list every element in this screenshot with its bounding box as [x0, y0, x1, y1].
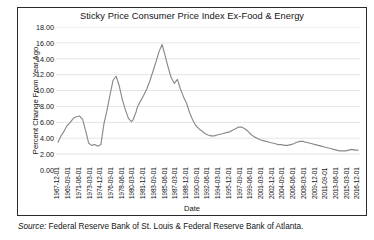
x-tick-label: 1976-09-01 — [107, 167, 114, 199]
x-tick-label: 1971-06-01 — [75, 167, 82, 199]
y-tick-label: 4.00 — [24, 134, 54, 143]
x-tick-label: 1990-09-01 — [193, 167, 200, 199]
x-tick-label: 1987-03-01 — [171, 167, 178, 199]
source-note: Source: Federal Reserve Bank of St. Loui… — [18, 222, 303, 231]
x-tick-label: 1978-06-01 — [118, 167, 125, 199]
y-tick-label: 6.00 — [24, 118, 54, 127]
x-tick-label: 2011-09-01 — [321, 168, 328, 199]
y-tick-label: 16.00 — [24, 39, 54, 48]
x-tick-label: 1969-09-01 — [64, 167, 71, 199]
x-tick-label: 2013-06-01 — [332, 167, 339, 199]
source-prefix: Source: — [18, 222, 46, 231]
x-tick-label: 1999-06-01 — [246, 167, 253, 199]
y-tick-label: 2.00 — [24, 150, 54, 159]
x-tick-label: 2002-12-01 — [268, 167, 275, 199]
x-axis-label: Date — [18, 204, 366, 213]
y-tick-label: 8.00 — [24, 102, 54, 111]
x-tick-label: 1974-12-01 — [96, 167, 103, 199]
x-tick-label: 2006-06-01 — [289, 167, 296, 199]
chart-figure: Sticky Price Consumer Price Index Ex-Foo… — [0, 0, 374, 240]
x-tick-label: 1967-12-01 — [53, 167, 60, 199]
y-tick-label: 18.00 — [24, 23, 54, 32]
y-tick-label: 14.00 — [24, 55, 54, 64]
y-tick-label: 10.00 — [24, 86, 54, 95]
chart-title: Sticky Price Consumer Price Index Ex-Foo… — [18, 11, 366, 21]
x-tick-label: 1973-03-01 — [86, 167, 93, 199]
data-series-line — [58, 44, 358, 150]
y-tick-label: 0.00 — [24, 166, 54, 175]
x-tick-label: 1980-03-01 — [128, 167, 135, 199]
plot-area — [56, 27, 360, 170]
x-tick-label: 1994-03-01 — [214, 167, 221, 199]
chart-frame: Sticky Price Consumer Price Index Ex-Foo… — [17, 7, 367, 216]
y-axis-tick-labels: 18.0016.0014.0012.0010.008.006.004.002.0… — [22, 27, 54, 170]
x-tick-label: 1988-12-01 — [182, 167, 189, 199]
x-tick-label: 2004-09-01 — [278, 167, 285, 199]
x-tick-label: 2016-12-01 — [353, 167, 360, 199]
x-tick-label: 1983-09-01 — [150, 167, 157, 199]
x-tick-label: 2009-12-01 — [311, 167, 318, 199]
x-tick-label: 1992-06-01 — [203, 167, 210, 199]
source-body: Federal Reserve Bank of St. Louis & Fede… — [46, 222, 303, 231]
x-tick-label: 2015-03-01 — [343, 167, 350, 199]
x-tick-label: 1997-09-01 — [236, 167, 243, 199]
series-line-chart — [56, 27, 360, 170]
x-tick-label: 1995-12-01 — [225, 167, 232, 199]
x-tick-label: 1981-12-01 — [139, 167, 146, 199]
x-tick-label: 1985-06-01 — [161, 167, 168, 199]
x-tick-label: 2008-03-01 — [300, 167, 307, 199]
x-tick-label: 2001-03-01 — [257, 167, 264, 199]
y-tick-label: 12.00 — [24, 70, 54, 79]
